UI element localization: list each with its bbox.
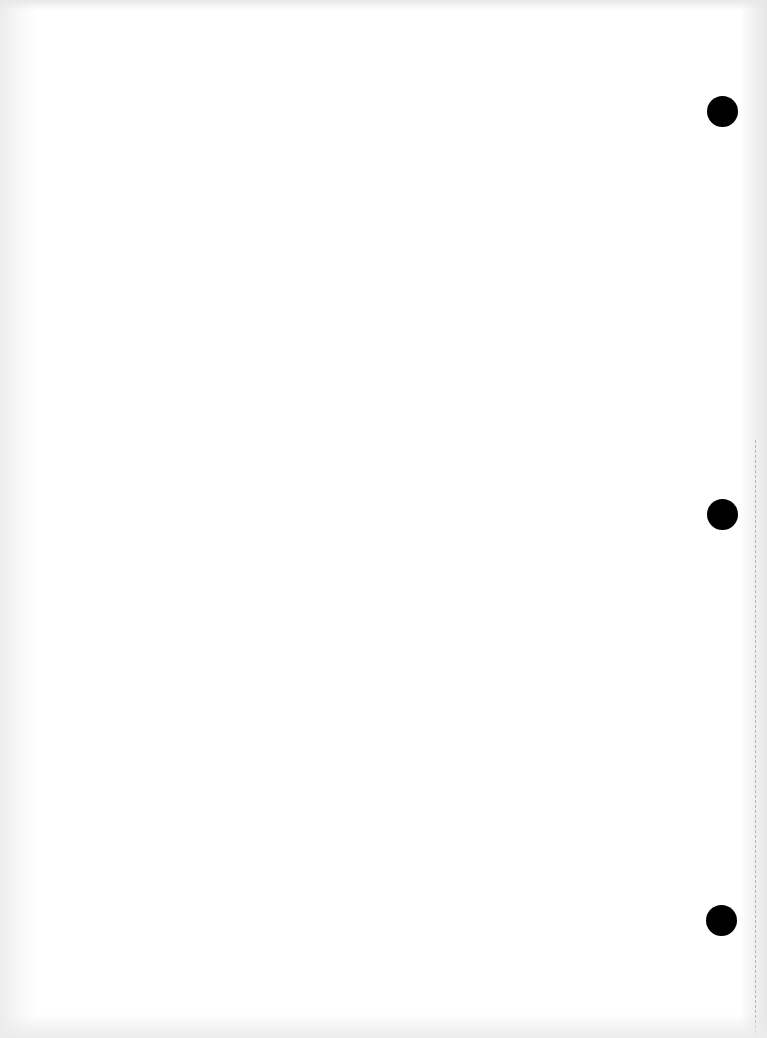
- punch-hole-top: [707, 96, 738, 127]
- blank-page: [0, 0, 767, 1038]
- punch-hole-bottom: [706, 905, 737, 936]
- perforation-line: [755, 440, 756, 1038]
- punch-hole-middle: [707, 499, 738, 530]
